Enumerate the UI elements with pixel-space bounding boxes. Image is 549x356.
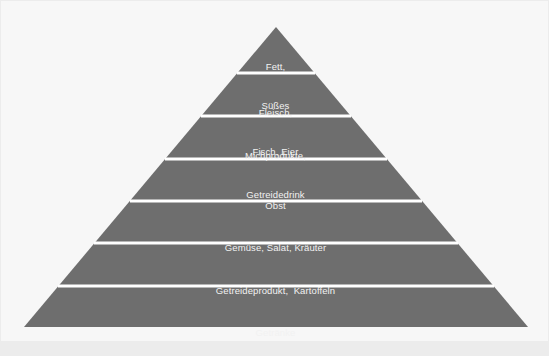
food-pyramid-figure: Fett, Süßes Fleisch, Fisch, Eier Michpro… xyxy=(1,1,549,356)
pyramid-graphic xyxy=(1,1,549,356)
diagram-canvas: Fett, Süßes Fleisch, Fisch, Eier Michpro… xyxy=(0,0,549,356)
